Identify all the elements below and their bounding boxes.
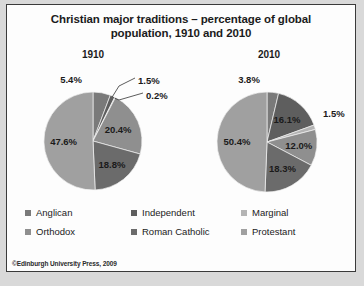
chart-title: Christian major traditions – percentage … (21, 12, 341, 40)
legend-label-marginal: Marginal (252, 207, 288, 218)
legend-swatch-roman-catholic (131, 229, 137, 235)
pie-slice-label-roman-catholic: 18.3% (269, 163, 296, 174)
legend-item-independent[interactable]: Independent (131, 207, 241, 218)
pie-slice-label-protestant: 50.4% (224, 136, 251, 147)
legend-swatch-independent (131, 210, 137, 216)
pie-slice-label-protestant: 47.6% (50, 136, 77, 147)
copyright-credit: ©Edinburgh University Press, 2009 (12, 260, 117, 267)
pie-year-label-2010: 2010 (243, 49, 295, 60)
pie-slice-label-marginal: 0.2% (146, 90, 168, 101)
legend-label-anglican: Anglican (36, 207, 72, 218)
legend-row: Anglican Independent Marginal (25, 203, 343, 222)
legend-row: Orthodox Roman Catholic Protestant (25, 222, 343, 241)
legend-label-orthodox: Orthodox (36, 226, 75, 237)
legend-swatch-orthodox (25, 229, 31, 235)
pie-year-label-1910: 1910 (67, 49, 119, 60)
pie-slice-label-anglican: 5.4% (60, 74, 82, 85)
legend-swatch-marginal (241, 210, 247, 216)
chart-figure: Christian major traditions – percentage … (6, 4, 356, 272)
pie-slice-label-independent: 16.1% (274, 114, 301, 125)
legend-item-marginal[interactable]: Marginal (241, 207, 341, 218)
pie-chart-2010: 3.8%16.1%1.5%12.0%18.3%50.4% (183, 61, 356, 211)
legend-label-protestant: Protestant (252, 226, 295, 237)
pie-slice-label-orthodox: 12.0% (285, 140, 312, 151)
pie-slice-label-independent: 1.5% (138, 75, 160, 86)
legend-item-orthodox[interactable]: Orthodox (25, 226, 131, 237)
legend-label-independent: Independent (142, 207, 195, 218)
legend-item-protestant[interactable]: Protestant (241, 226, 341, 237)
legend-label-roman-catholic: Roman Catholic (142, 226, 210, 237)
legend-item-anglican[interactable]: Anglican (25, 207, 131, 218)
pie-slice-label-roman-catholic: 18.8% (98, 159, 125, 170)
legend-swatch-protestant (241, 229, 247, 235)
pie-slice-label-marginal: 1.5% (323, 108, 345, 119)
pie-slice-label-orthodox: 20.4% (105, 124, 132, 135)
pie-chart-1910: 5.4%1.5%0.2%20.4%18.8%47.6% (7, 61, 187, 211)
legend-item-roman-catholic[interactable]: Roman Catholic (131, 226, 241, 237)
pie-slice-label-anglican: 3.8% (238, 74, 260, 85)
legend-swatch-anglican (25, 210, 31, 216)
chart-legend: Anglican Independent Marginal Orthodox R… (25, 203, 343, 245)
